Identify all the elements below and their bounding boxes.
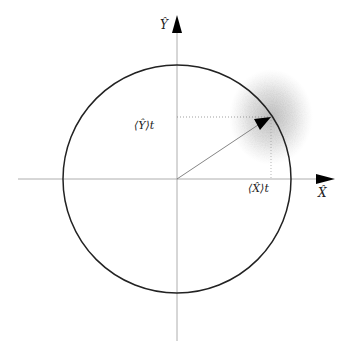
y-axis-label: Ŷ	[160, 18, 168, 32]
diagram-canvas	[0, 0, 347, 356]
x-axis-arrowhead	[316, 174, 335, 184]
y-expectation-label: ⟨Ŷ⟩t	[134, 119, 154, 132]
y-axis-arrowhead	[172, 15, 182, 33]
phase-space-diagram: Ŷ X̂ ⟨Ŷ⟩t ⟨X̂⟩t	[0, 0, 347, 356]
x-axis-label: X̂	[318, 186, 327, 200]
x-expectation-label: ⟨X̂⟩t	[248, 182, 269, 195]
